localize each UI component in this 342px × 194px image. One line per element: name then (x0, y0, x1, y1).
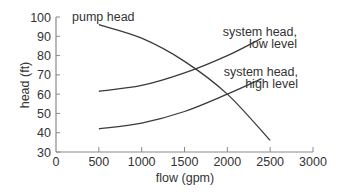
low-level-label-line2: low level (249, 37, 297, 51)
x-tick-label: 3000 (299, 155, 327, 169)
pump-head-label: pump head (72, 10, 135, 24)
y-tick-label: 60 (37, 88, 51, 102)
high-level-label-line2: high level (245, 77, 298, 91)
x-tick-label: 500 (88, 155, 109, 169)
y-axis-label: head (ft) (18, 62, 32, 109)
x-tick-label: 0 (53, 155, 60, 169)
y-tick-label: 80 (37, 49, 51, 63)
pump-system-curve-chart: 3040506070809010005001000150020002500300… (0, 0, 342, 194)
x-tick-label: 1500 (171, 155, 199, 169)
y-tick-label: 40 (37, 126, 51, 140)
x-tick-label: 1000 (128, 155, 156, 169)
y-tick-label: 50 (37, 107, 51, 121)
y-tick-label: 90 (37, 30, 51, 44)
y-tick-label: 70 (37, 68, 51, 82)
x-tick-label: 2000 (213, 155, 241, 169)
chart-svg: 3040506070809010005001000150020002500300… (0, 0, 342, 194)
y-tick-label: 100 (30, 11, 51, 25)
x-axis-label: flow (gpm) (156, 171, 214, 185)
y-tick-label: 30 (37, 146, 51, 160)
x-tick-label: 2500 (256, 155, 284, 169)
